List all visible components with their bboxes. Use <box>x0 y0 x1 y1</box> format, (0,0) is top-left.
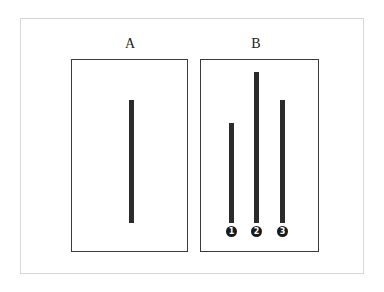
reference-line <box>129 100 134 223</box>
line-number-3-marker: 3 <box>277 226 288 237</box>
panel-b-label: B <box>246 36 266 52</box>
line-number-2-marker: 2 <box>251 226 262 237</box>
comparison-line-2 <box>254 72 259 223</box>
panel-a <box>71 59 188 252</box>
comparison-line-3 <box>280 100 285 223</box>
panel-b: 1 2 3 <box>200 59 319 252</box>
panel-a-label: A <box>120 36 140 52</box>
line-number-1-marker: 1 <box>226 226 237 237</box>
comparison-line-1 <box>229 123 234 223</box>
